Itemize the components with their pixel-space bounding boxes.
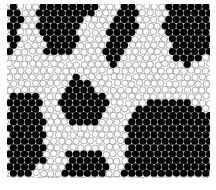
filled-disk <box>191 112 198 119</box>
empty-disk <box>158 16 165 23</box>
filled-disk <box>73 35 80 42</box>
filled-disk <box>206 112 213 119</box>
empty-disk <box>136 4 143 11</box>
filled-disk <box>6 35 13 42</box>
empty-disk <box>210 67 216 74</box>
filled-disk <box>6 22 13 29</box>
empty-disk <box>54 80 61 87</box>
filled-disk <box>154 163 161 170</box>
empty-disk <box>26 29 32 36</box>
filled-disk <box>10 157 17 164</box>
empty-disk <box>55 67 62 74</box>
filled-disk <box>184 112 191 119</box>
empty-disk <box>37 74 44 81</box>
filled-disk <box>147 125 154 132</box>
filled-disk <box>150 157 157 164</box>
filled-disk <box>32 106 39 113</box>
empty-disk <box>114 106 121 113</box>
empty-disk <box>55 93 62 100</box>
filled-disk <box>73 86 80 93</box>
empty-disk <box>96 125 103 132</box>
filled-disk <box>39 144 46 151</box>
filled-disk <box>28 163 35 170</box>
filled-disk <box>187 29 194 36</box>
empty-disk <box>10 81 17 88</box>
filled-disk <box>128 170 135 177</box>
empty-disk <box>72 125 79 132</box>
empty-disk <box>17 3 24 10</box>
empty-disk <box>89 23 96 30</box>
empty-disk <box>210 157 216 164</box>
empty-disk <box>143 16 150 23</box>
filled-disk <box>69 3 76 10</box>
empty-disk <box>129 106 136 113</box>
empty-disk <box>44 73 51 80</box>
filled-disk <box>180 131 187 138</box>
filled-disk <box>199 151 206 158</box>
empty-disk <box>62 144 69 151</box>
empty-disk <box>37 163 44 170</box>
empty-disk <box>113 144 120 151</box>
filled-disk <box>180 29 187 36</box>
empty-disk <box>136 80 143 87</box>
empty-disk <box>21 61 28 68</box>
empty-disk <box>100 30 107 37</box>
filled-disk <box>187 157 194 164</box>
filled-disk <box>184 125 191 132</box>
empty-disk <box>88 48 95 55</box>
empty-disk <box>181 68 188 75</box>
empty-disk <box>114 170 121 177</box>
empty-disk <box>59 138 66 145</box>
empty-disk <box>59 164 65 171</box>
empty-disk <box>107 4 114 11</box>
filled-disk <box>69 106 76 113</box>
filled-disk <box>6 151 13 158</box>
filled-disk <box>128 29 135 36</box>
empty-disk <box>99 67 106 74</box>
empty-disk <box>103 126 110 133</box>
empty-disk <box>50 138 57 145</box>
empty-disk <box>136 55 143 62</box>
empty-disk <box>14 74 21 81</box>
empty-disk <box>102 86 109 93</box>
filled-disk <box>91 106 98 113</box>
filled-disk <box>125 10 132 17</box>
empty-disk <box>18 41 25 48</box>
empty-disk <box>143 55 150 62</box>
empty-disk <box>22 73 29 80</box>
empty-disk <box>47 119 54 126</box>
filled-disk <box>84 93 91 100</box>
empty-disk <box>181 80 188 87</box>
empty-disk <box>54 118 61 125</box>
empty-disk <box>139 73 146 80</box>
filled-disk <box>187 106 194 113</box>
empty-disk <box>2 118 9 125</box>
empty-disk <box>3 81 10 88</box>
filled-disk <box>39 16 46 23</box>
filled-disk <box>62 29 69 36</box>
empty-disk <box>65 126 72 133</box>
filled-disk <box>32 131 39 138</box>
filled-disk <box>43 10 50 17</box>
filled-disk <box>184 151 191 158</box>
particle-packing-figure <box>0 0 216 190</box>
empty-disk <box>66 62 73 69</box>
filled-disk <box>54 42 61 49</box>
filled-disk <box>36 125 43 132</box>
empty-disk <box>147 61 154 68</box>
empty-disk <box>24 43 31 50</box>
filled-disk <box>132 125 139 132</box>
filled-disk <box>47 29 54 36</box>
filled-disk <box>51 10 58 17</box>
filled-disk <box>69 80 76 87</box>
filled-disk <box>128 16 135 23</box>
empty-disk <box>157 80 164 87</box>
empty-disk <box>47 93 54 100</box>
empty-disk <box>22 35 29 42</box>
empty-disk <box>106 93 113 100</box>
empty-disk <box>139 10 146 16</box>
empty-disk <box>128 81 135 88</box>
filled-disk <box>132 138 139 145</box>
empty-disk <box>210 94 216 101</box>
empty-disk <box>199 74 206 81</box>
